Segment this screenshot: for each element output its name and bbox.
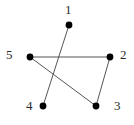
edges-group <box>30 25 110 106</box>
vertex-label-5: 5 <box>6 48 13 61</box>
graph-vertex-5 <box>27 54 34 61</box>
vertex-label-1: 1 <box>65 3 72 16</box>
graph-vertex-4 <box>40 103 47 110</box>
graph-edge-5-3 <box>30 57 96 106</box>
graph-vertex-2 <box>107 54 114 61</box>
vertex-label-3: 3 <box>114 99 121 112</box>
graph-edge-1-4 <box>43 25 69 106</box>
graph-edge-2-3 <box>96 57 110 106</box>
vertex-label-2: 2 <box>120 48 127 61</box>
graph-figure: 12345 <box>0 0 134 125</box>
graph-vertex-1 <box>66 22 73 29</box>
vertices-group <box>27 22 114 110</box>
vertex-label-4: 4 <box>26 99 33 112</box>
graph-vertex-3 <box>93 103 100 110</box>
